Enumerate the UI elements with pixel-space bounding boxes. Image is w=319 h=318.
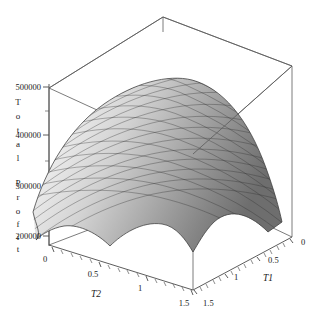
t1-tick-0.5 [257, 257, 260, 261]
t1-tick-label-1: 1 [234, 272, 238, 282]
t2-tick-label-0.5: 0.5 [88, 269, 99, 279]
z-tick-label-500000: 500000 [16, 82, 42, 92]
surface-dome [20, 53, 318, 258]
zlabel-letter-11: t [17, 244, 20, 254]
t2-tick-label-1: 1 [138, 283, 142, 293]
t2-axis-label: T2 [91, 289, 101, 299]
t1-axis-label: T1 [263, 273, 273, 283]
t2-axis-line [49, 245, 193, 290]
zlabel-letter-0: T [15, 97, 21, 107]
zlabel-letter-8: o [16, 206, 21, 216]
t1-tick-label-0: 0 [301, 237, 305, 247]
t2-tick-label-1.5: 1.5 [179, 298, 190, 308]
zlabel-letter-6: P [15, 178, 20, 188]
plot-canvas: 500000 400000 300000 200000 0 0.5 1 1.5 … [0, 0, 319, 318]
zlabel-letter-7: r [17, 192, 20, 202]
zlabel-letter-4: l [17, 153, 20, 163]
t1-tick-1.5 [194, 290, 197, 294]
box-top-back-edges [49, 17, 292, 88]
surface-plot-figure: 500000 400000 300000 200000 0 0.5 1 1.5 … [0, 0, 319, 318]
t2-tick-0.5 [99, 262, 101, 267]
t2-tick-1 [146, 276, 148, 281]
t1-axis-ticks [194, 239, 293, 294]
zlabel-letter-1: o [16, 111, 21, 121]
t1-tick-0 [290, 239, 293, 243]
zlabel-letter-9: f [17, 219, 20, 229]
t2-tick-0 [52, 247, 54, 252]
z-tick-label-200000: 200000 [16, 231, 42, 241]
t2-tick-1.5 [191, 290, 193, 295]
t1-tick-1 [225, 274, 228, 278]
zlabel-letter-3: a [16, 139, 20, 149]
t1-tick-label-0.5: 0.5 [268, 255, 279, 265]
t1-tick-label-1.5: 1.5 [203, 298, 214, 308]
t2-tick-label-0: 0 [43, 254, 47, 264]
t2-axis-ticks [52, 247, 193, 295]
